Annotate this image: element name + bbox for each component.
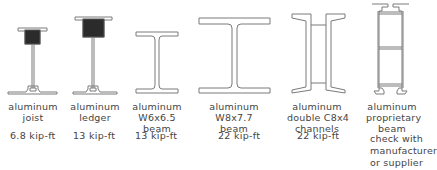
label-line: joist xyxy=(7,112,59,123)
label-line: aluminum xyxy=(366,101,418,112)
label-line: aluminum xyxy=(131,101,183,112)
label-line: proprietary xyxy=(366,112,418,123)
w8-beam-capacity: 22 kip-ft xyxy=(218,130,260,141)
joist-capacity: 6.8 kip-ft xyxy=(10,130,56,141)
w6-beam-section-icon xyxy=(136,32,178,93)
proprietary-beam-note: check with manufacturer or supplier xyxy=(370,133,437,169)
double-channel-section-icon xyxy=(292,14,345,93)
ledger-label: aluminum ledger xyxy=(69,101,121,123)
aluminum-joist-section-icon xyxy=(8,28,57,94)
note-line: or supplier xyxy=(370,157,437,169)
label-line: aluminum xyxy=(208,101,260,112)
w6-beam-capacity: 13 kip-ft xyxy=(135,130,177,141)
label-line: aluminum xyxy=(69,101,121,112)
aluminum-ledger-section-icon xyxy=(73,17,117,94)
ledger-capacity: 13 kip-ft xyxy=(73,130,115,141)
double-channel-capacity: 22 kip-ft xyxy=(297,130,339,141)
w8-beam-section-icon xyxy=(199,18,270,93)
label-line: double C8x4 xyxy=(287,112,347,123)
proprietary-beam-section-icon xyxy=(372,4,409,94)
note-line: manufacturer xyxy=(370,145,437,157)
label-line: ledger xyxy=(69,112,121,123)
joist-label: aluminum joist xyxy=(7,101,59,123)
proprietary-beam-label: aluminum proprietary beam xyxy=(366,101,418,134)
label-line: aluminum xyxy=(7,101,59,112)
note-line: check with xyxy=(370,133,437,145)
label-line: aluminum xyxy=(287,101,347,112)
label-line: W6x6.5 xyxy=(131,112,183,123)
label-line: W8x7.7 xyxy=(208,112,260,123)
